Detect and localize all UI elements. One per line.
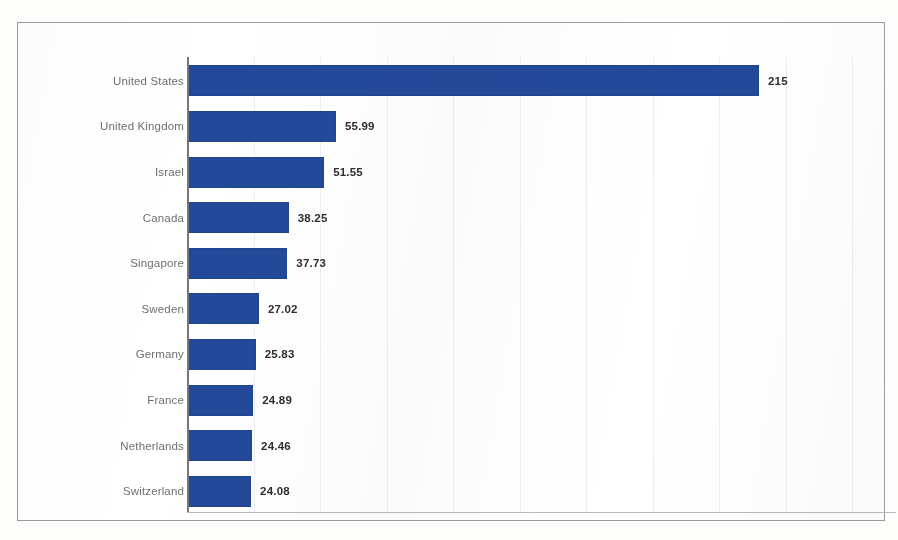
bar[interactable]	[187, 248, 287, 279]
chart-page: United StatesUnited KingdomIsraelCanadaS…	[0, 0, 898, 540]
bar[interactable]	[187, 293, 259, 324]
category-label: Switzerland	[14, 485, 184, 497]
bar-value-label: 51.55	[333, 166, 363, 178]
category-label: United States	[14, 75, 184, 87]
bar-value-label: 27.02	[268, 303, 298, 315]
bar-value-label: 25.83	[265, 348, 295, 360]
bar[interactable]	[187, 385, 253, 416]
bar-row[interactable]: 24.08	[187, 476, 884, 507]
bar-value-label: 24.89	[262, 394, 292, 406]
bar[interactable]	[187, 65, 759, 96]
bar-row[interactable]: 24.46	[187, 430, 884, 461]
bar-value-label: 55.99	[345, 120, 375, 132]
chart-frame: United StatesUnited KingdomIsraelCanadaS…	[17, 22, 885, 521]
bar-row[interactable]: 27.02	[187, 293, 884, 324]
x-axis-line	[187, 512, 896, 513]
bar-row[interactable]: 25.83	[187, 339, 884, 370]
bar-row[interactable]: 37.73	[187, 248, 884, 279]
bar-value-label: 38.25	[298, 212, 328, 224]
category-label: France	[14, 394, 184, 406]
bar-row[interactable]: 51.55	[187, 157, 884, 188]
bar[interactable]	[187, 111, 336, 142]
y-axis-line	[187, 57, 189, 513]
bar-value-label: 24.08	[260, 485, 290, 497]
bar[interactable]	[187, 157, 324, 188]
category-axis-labels: United StatesUnited KingdomIsraelCanadaS…	[18, 57, 184, 513]
plot-area: 21555.9951.5538.2537.7327.0225.8324.8924…	[187, 57, 884, 513]
bar-row[interactable]: 215	[187, 65, 884, 96]
bar[interactable]	[187, 430, 252, 461]
bar-row[interactable]: 24.89	[187, 385, 884, 416]
bar-row[interactable]: 38.25	[187, 202, 884, 233]
bar-value-label: 37.73	[296, 257, 326, 269]
category-label: Netherlands	[14, 440, 184, 452]
bar[interactable]	[187, 476, 251, 507]
category-label: Germany	[14, 348, 184, 360]
category-label: United Kingdom	[14, 120, 184, 132]
category-label: Israel	[14, 166, 184, 178]
bar-row[interactable]: 55.99	[187, 111, 884, 142]
bar-value-label: 215	[768, 75, 788, 87]
category-label: Canada	[14, 212, 184, 224]
bar-value-label: 24.46	[261, 440, 291, 452]
bar[interactable]	[187, 339, 256, 370]
category-label: Singapore	[14, 257, 184, 269]
category-label: Sweden	[14, 303, 184, 315]
bar[interactable]	[187, 202, 289, 233]
